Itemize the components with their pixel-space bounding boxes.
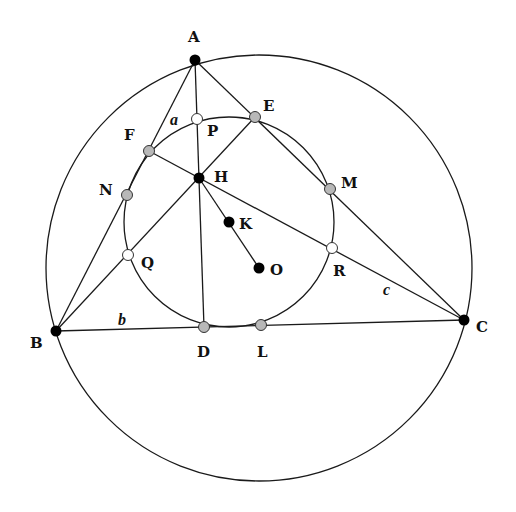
label-k: K: [239, 215, 253, 233]
point-r: [327, 243, 338, 254]
altitude-ad: [195, 60, 204, 327]
nine-point-circle-diagram: A B C H K O D E F L M N P Q R a b c: [0, 0, 516, 512]
point-m: [325, 184, 336, 195]
point-h: [194, 173, 205, 184]
label-m: M: [341, 174, 358, 192]
side-label-c: c: [383, 281, 390, 298]
point-q: [123, 250, 134, 261]
point-d: [199, 322, 210, 333]
label-c: C: [476, 318, 488, 336]
point-l: [256, 320, 267, 331]
point-k: [224, 217, 235, 228]
label-d: D: [197, 343, 210, 361]
label-e: E: [263, 97, 274, 115]
point-p: [192, 114, 203, 125]
label-l: L: [257, 343, 268, 361]
point-n: [122, 190, 133, 201]
label-o: O: [270, 261, 283, 279]
label-q: Q: [141, 254, 154, 272]
label-h: H: [214, 168, 228, 186]
point-f: [144, 146, 155, 157]
label-a: A: [187, 28, 200, 46]
point-c: [459, 315, 470, 326]
label-n: N: [99, 181, 113, 199]
point-b: [51, 326, 62, 337]
label-f: F: [124, 126, 135, 144]
label-r: R: [333, 262, 346, 280]
side-label-a: a: [170, 111, 178, 128]
label-p: P: [207, 122, 218, 140]
label-b: B: [30, 334, 43, 352]
side-label-b: b: [118, 311, 126, 328]
point-a: [190, 55, 201, 66]
point-e: [250, 112, 261, 123]
point-o: [254, 263, 265, 274]
